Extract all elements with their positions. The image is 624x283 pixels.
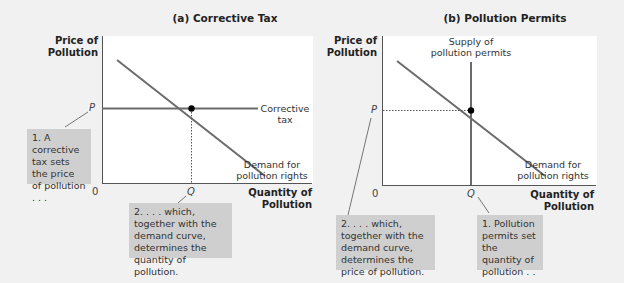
panel-title-b: (b) Pollution Permits xyxy=(420,12,590,24)
y-axis-label-b: Price of Pollution xyxy=(307,35,377,59)
note-box-b1: 1. Pollution permits set the quantity of… xyxy=(477,215,543,270)
note-pointer-b1 xyxy=(478,197,489,213)
note-box-a1: 1. A corrective tax sets the price of po… xyxy=(27,129,91,184)
equilibrium-point-a xyxy=(188,105,194,111)
panel-title-a: (a) Corrective Tax xyxy=(140,12,310,24)
q-tick-a: Q xyxy=(187,186,195,197)
demand-label-a: Demand for pollution rights xyxy=(232,159,312,181)
note-box-a2: 2. . . . which, together with the demand… xyxy=(129,203,232,258)
note-box-b2: 2. . . . which, together with the demand… xyxy=(336,215,435,270)
x-axis-label-b: Quantity of Pollution xyxy=(522,189,594,213)
q-tick-b: Q xyxy=(467,188,475,199)
demand-label-b: Demand for pollution rights xyxy=(512,159,594,181)
p-tick-b: P xyxy=(371,104,377,115)
equilibrium-point-b xyxy=(468,107,474,113)
x-axis-label-a: Quantity of Pollution xyxy=(240,187,312,211)
y-axis-label-a: Price of Pollution xyxy=(28,35,98,59)
note-pointer-b2 xyxy=(348,118,371,215)
corrective-tax-label: Corrective tax xyxy=(254,103,316,125)
origin-b: 0 xyxy=(372,188,378,199)
origin-a: 0 xyxy=(92,186,98,197)
note-pointer-a1 xyxy=(65,112,88,127)
supply-permits-label: Supply of pollution permits xyxy=(425,36,517,58)
note-pointer-a2 xyxy=(178,196,186,203)
p-tick-a: P xyxy=(89,102,95,113)
